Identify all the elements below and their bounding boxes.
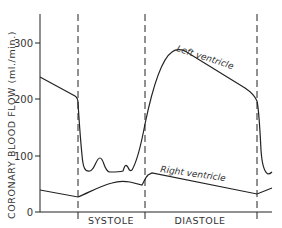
y-axis-label: CORONARY BLOOD FLOW (ml./min.) (6, 31, 17, 219)
right-ventricle-curve (40, 173, 272, 197)
chart-svg: 300 200 100 0 CORONARY BLOOD FLOW (ml./m… (0, 0, 282, 228)
right-ventricle-annotation: Right ventricle (160, 164, 227, 183)
left-ventricle-annotation: Left ventricle (175, 43, 235, 71)
y-tick-label-0: 0 (27, 207, 33, 218)
coronary-flow-chart: 300 200 100 0 CORONARY BLOOD FLOW (ml./m… (0, 0, 282, 228)
left-ventricle-curve (40, 50, 272, 174)
diastole-label: DIASTOLE (174, 215, 225, 226)
systole-label: SYSTOLE (88, 215, 134, 226)
